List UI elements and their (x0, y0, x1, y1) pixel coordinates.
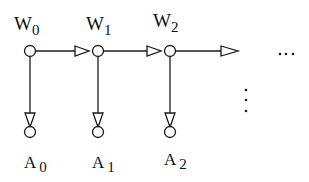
horizontal-ellipsis (279, 53, 295, 56)
node-w1 (93, 46, 104, 57)
arrowhead-icon (221, 46, 238, 56)
arrowhead-icon (147, 46, 161, 56)
arrowhead-icon (165, 113, 175, 127)
vertical-ellipsis (245, 89, 248, 113)
node-a2 (165, 127, 176, 138)
node-w0 (25, 46, 36, 57)
label-a1: A1 (92, 153, 115, 175)
label-w1: W1 (86, 13, 111, 38)
label-w2: W2 (153, 10, 178, 35)
diagram-canvas: W0 W1 W2 A0 A1 A2 (0, 0, 309, 182)
label-a0: A0 (24, 153, 47, 175)
label-w0: W0 (14, 13, 39, 38)
node-a1 (93, 127, 104, 138)
arrowhead-icon (93, 113, 103, 127)
arrowhead-icon (75, 46, 89, 56)
node-w2 (165, 46, 176, 57)
arrowhead-icon (25, 113, 35, 127)
label-a2: A2 (164, 150, 187, 172)
node-a0 (25, 127, 36, 138)
